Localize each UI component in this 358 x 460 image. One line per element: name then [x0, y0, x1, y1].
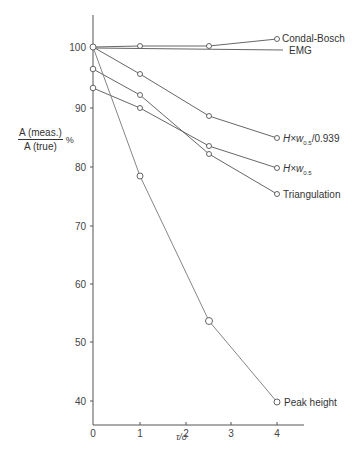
label-hw-0939: H×w0.5/0.939	[283, 133, 340, 146]
x-tick-4: 4	[274, 428, 280, 439]
y-tick-40: 40	[75, 396, 87, 407]
x-tick-3: 3	[228, 428, 234, 439]
label-hw: H×w0.5	[283, 163, 312, 176]
y-tick-80: 80	[75, 162, 87, 173]
y-tick-50: 50	[75, 337, 87, 348]
series-hw-line	[93, 88, 277, 168]
series-peak-height-line	[93, 47, 277, 402]
x-tick-0: 0	[90, 428, 96, 439]
chart-plot: 100 90 80 70 60 50 40 0 1 2 3 4	[0, 0, 358, 460]
label-triangulation: Triangulation	[283, 189, 340, 200]
series-hw-0939-line	[93, 47, 277, 138]
series-triangulation-line	[93, 69, 277, 194]
y-label-denominator: A (true)	[18, 140, 63, 152]
y-axis-label: A (meas.) A (true) %	[18, 127, 74, 152]
y-tick-100: 100	[69, 42, 86, 53]
x-tick-1: 1	[137, 428, 143, 439]
series-condal-bosch-line	[93, 39, 277, 47]
y-tick-90: 90	[75, 103, 87, 114]
y-tick-60: 60	[75, 279, 87, 290]
y-ticks: 100 90 80 70 60 50 40	[69, 42, 93, 407]
data-markers	[90, 37, 280, 406]
label-emg: EMG	[289, 45, 312, 56]
x-axis-label: τ/σ	[176, 432, 187, 442]
label-peak-height: Peak height	[284, 397, 337, 408]
y-label-unit: %	[66, 135, 74, 145]
y-tick-70: 70	[75, 221, 87, 232]
label-condal-bosch: Condal-Bosch	[282, 33, 345, 44]
series-emg-line	[93, 48, 283, 50]
y-label-numerator: A (meas.)	[18, 127, 63, 140]
